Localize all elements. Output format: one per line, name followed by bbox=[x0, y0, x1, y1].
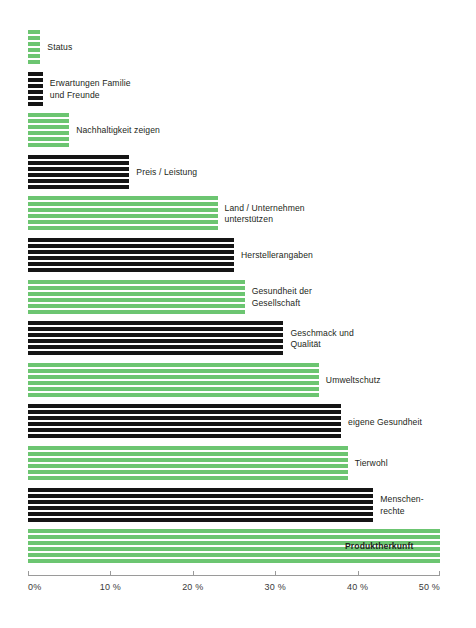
bar-label: Nachhaltigkeit zeigen bbox=[76, 125, 160, 137]
bar-umweltschutz[interactable] bbox=[28, 363, 319, 399]
bar-row: Preis / Leistung bbox=[28, 155, 440, 191]
bar-label: Menschen- rechte bbox=[380, 494, 423, 517]
bar-tierwohl[interactable] bbox=[28, 446, 348, 482]
x-axis-tick-label: 10 % bbox=[100, 582, 121, 592]
x-axis-tick bbox=[439, 571, 440, 575]
bar-gesundheit-der-gesellschaft[interactable] bbox=[28, 280, 245, 316]
bar-label: Land / Unternehmen unterstützen bbox=[225, 203, 305, 226]
x-axis-tick bbox=[28, 571, 29, 575]
x-axis-tick-label: 50 % bbox=[419, 582, 440, 592]
bar-erwartungen-familie-und-freunde[interactable] bbox=[28, 72, 43, 108]
x-axis-tick bbox=[358, 571, 359, 575]
bar-chart: StatusErwartungen Familie und FreundeNac… bbox=[0, 0, 476, 628]
bar-row: Umweltschutz bbox=[28, 363, 440, 399]
bar-row: Geschmack und Qualität bbox=[28, 321, 440, 357]
bar-row: Menschen- rechte bbox=[28, 488, 440, 524]
x-axis-tick-label: 0% bbox=[28, 582, 41, 592]
plot-area: StatusErwartungen Familie und FreundeNac… bbox=[28, 26, 440, 570]
bar-preis-leistung[interactable] bbox=[28, 155, 129, 191]
bar-label: Preis / Leistung bbox=[136, 167, 197, 179]
bar-label: Status bbox=[47, 42, 72, 54]
x-axis bbox=[28, 575, 440, 576]
bar-land-unternehmen-unterst-tzen[interactable] bbox=[28, 196, 218, 232]
bar-status[interactable] bbox=[28, 30, 40, 66]
bar-row: Erwartungen Familie und Freunde bbox=[28, 72, 440, 108]
x-axis-tick bbox=[275, 571, 276, 575]
bar-label: Geschmack und Qualität bbox=[290, 328, 353, 351]
bar-row: Gesundheit der Gesellschaft bbox=[28, 280, 440, 316]
bar-row: Tierwohl bbox=[28, 446, 440, 482]
bar-produktherkunft[interactable] bbox=[28, 529, 440, 565]
bar-eigene-gesundheit[interactable] bbox=[28, 404, 341, 440]
x-axis-tick-label: 30 % bbox=[265, 582, 286, 592]
x-axis-tick-label: 20 % bbox=[182, 582, 203, 592]
x-axis-tick bbox=[110, 571, 111, 575]
bar-label: Gesundheit der Gesellschaft bbox=[252, 286, 312, 309]
bar-menschenrechte[interactable] bbox=[28, 488, 373, 524]
bar-label: eigene Gesundheit bbox=[348, 417, 422, 429]
bar-row: Produktherkunft bbox=[28, 529, 440, 565]
bar-nachhaltigkeit-zeigen[interactable] bbox=[28, 113, 69, 149]
bar-label: Umweltschutz bbox=[326, 375, 381, 387]
bar-label: Herstellerangaben bbox=[241, 250, 313, 262]
x-axis-tick bbox=[193, 571, 194, 575]
bar-herstellerangaben[interactable] bbox=[28, 238, 234, 274]
bar-label: Erwartungen Familie und Freunde bbox=[50, 78, 131, 101]
x-axis-tick-label: 40 % bbox=[347, 582, 368, 592]
bar-row: Status bbox=[28, 30, 440, 66]
bar-label: Tierwohl bbox=[355, 458, 388, 470]
bar-geschmack-und-qualit-t[interactable] bbox=[28, 321, 283, 357]
bar-row: Land / Unternehmen unterstützen bbox=[28, 196, 440, 232]
bar-row: Nachhaltigkeit zeigen bbox=[28, 113, 440, 149]
bar-row: eigene Gesundheit bbox=[28, 404, 440, 440]
bar-row: Herstellerangaben bbox=[28, 238, 440, 274]
